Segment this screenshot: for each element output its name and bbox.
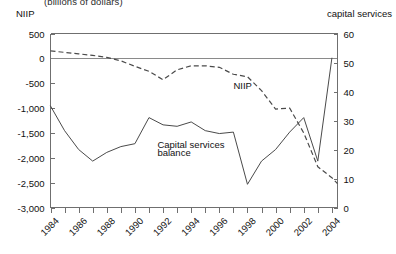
svg-text:-2,500: -2,500 <box>18 178 45 189</box>
svg-text:1992: 1992 <box>151 215 174 238</box>
svg-text:-500: -500 <box>25 78 44 89</box>
svg-text:60: 60 <box>344 29 355 40</box>
svg-text:1994: 1994 <box>179 215 202 238</box>
svg-text:50: 50 <box>344 58 355 69</box>
svg-text:-1,000: -1,000 <box>18 103 45 114</box>
left-axis-tick-labels: 5000-500-1,000-1,500-2,000-2,500-3,000 <box>18 29 45 214</box>
svg-text:-1,500: -1,500 <box>18 128 45 139</box>
series-niip-line <box>51 51 338 184</box>
annotation-capital-services-line2: balance <box>157 147 190 158</box>
svg-text:30: 30 <box>344 116 355 127</box>
x-axis-tick-labels: 1984198619881990199219941996199820002002… <box>38 215 342 238</box>
svg-text:-3,000: -3,000 <box>18 203 45 214</box>
svg-text:-2,000: -2,000 <box>18 153 45 164</box>
svg-text:1986: 1986 <box>66 215 89 238</box>
svg-text:2002: 2002 <box>291 215 314 238</box>
svg-text:1990: 1990 <box>123 215 146 238</box>
svg-text:1998: 1998 <box>235 215 258 238</box>
svg-text:10: 10 <box>344 174 355 185</box>
chart-container: (billions of dollars) NIIP capital servi… <box>0 0 396 254</box>
svg-text:500: 500 <box>29 29 45 40</box>
svg-text:20: 20 <box>344 145 355 156</box>
svg-text:1996: 1996 <box>207 215 230 238</box>
svg-text:0: 0 <box>39 53 44 64</box>
right-axis-tick-labels: 6050403020100 <box>344 29 355 214</box>
series-capital-services-balance-line <box>51 58 332 184</box>
svg-text:2004: 2004 <box>320 215 343 238</box>
annotation-niip: NIIP <box>233 80 251 91</box>
svg-text:0: 0 <box>344 203 349 214</box>
svg-text:1984: 1984 <box>38 215 61 238</box>
svg-text:40: 40 <box>344 87 355 98</box>
chart-plot-area: 5000-500-1,000-1,500-2,000-2,500-3,000 6… <box>0 0 396 254</box>
left-axis-ticks <box>51 35 55 209</box>
svg-text:2000: 2000 <box>263 215 286 238</box>
svg-text:1988: 1988 <box>94 215 117 238</box>
x-axis-ticks <box>52 208 333 213</box>
